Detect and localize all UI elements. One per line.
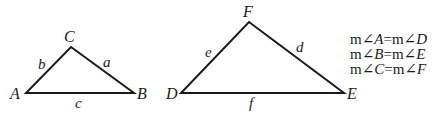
vertex-label-c: C (64, 28, 75, 45)
vertex-label-a: A (9, 85, 20, 102)
equation-angle-a-d: m∠A=m∠D (350, 31, 427, 47)
side-label-e: e (205, 44, 212, 60)
side-label-d: d (296, 39, 304, 55)
equation-angle-b-e: m∠B=m∠E (350, 46, 425, 62)
side-label-a: a (103, 54, 111, 70)
equation-angle-c-f: m∠C=m∠F (350, 61, 427, 77)
side-label-b: b (38, 56, 46, 72)
diagram-canvas: C b a A B c F e d D E f m∠A=m∠D m∠B=m∠E … (0, 0, 443, 114)
vertex-label-b: B (137, 85, 147, 102)
side-label-c: c (75, 95, 82, 111)
side-label-f: f (249, 95, 255, 111)
vertex-label-d: D (165, 85, 178, 102)
vertex-label-f: F (242, 3, 253, 20)
similar-triangles-diagram: C b a A B c F e d D E f m∠A=m∠D m∠B=m∠E … (0, 0, 443, 114)
vertex-label-e: E (346, 85, 357, 102)
